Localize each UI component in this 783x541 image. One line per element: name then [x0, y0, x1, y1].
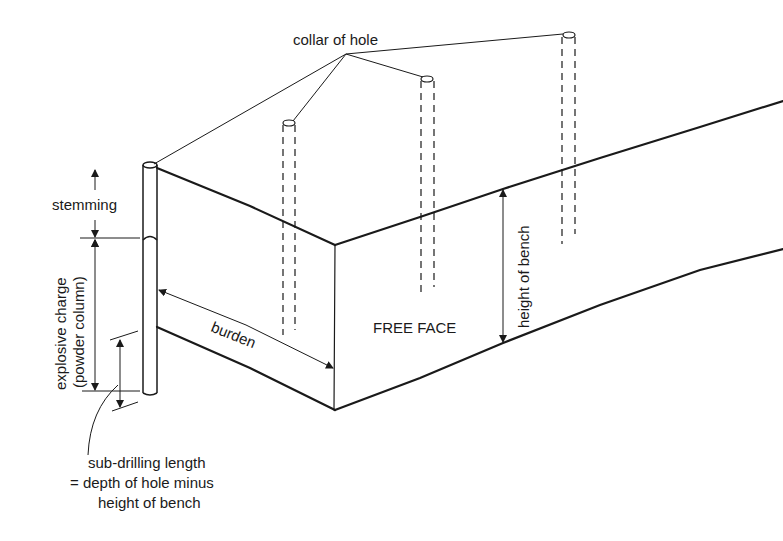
blast-hole-front: [143, 162, 157, 395]
bench-top-edge-right: [335, 101, 783, 245]
blast-hole-2: [283, 120, 295, 335]
collar-leaders: [154, 34, 563, 164]
charge-label-2: (powder column): [70, 276, 87, 388]
collar-label: collar of hole: [293, 31, 378, 48]
subdrill-label-2: = depth of hole minus: [70, 474, 214, 491]
stemming-label: stemming: [52, 196, 117, 213]
charge-label-1: explosive charge: [52, 277, 69, 390]
subdrill-label-1: sub-drilling length: [88, 454, 206, 471]
burden-label: burden: [209, 318, 259, 351]
bench-outline: [157, 101, 783, 410]
charge-boundary: [143, 237, 157, 241]
burden-dimension: [159, 290, 333, 368]
free-face-label: FREE FACE: [373, 319, 456, 336]
blast-bench-diagram: collar of hole stemming explosive charge…: [0, 0, 783, 541]
free-face-corner: [334, 245, 335, 410]
subdrill-label-3: height of bench: [98, 494, 201, 511]
blast-hole-4: [562, 32, 575, 244]
charge-dimension: [82, 240, 140, 391]
blast-hole-3: [421, 76, 434, 292]
bench-height-label: height of bench: [515, 225, 532, 328]
bench-top-edge: [157, 168, 335, 245]
